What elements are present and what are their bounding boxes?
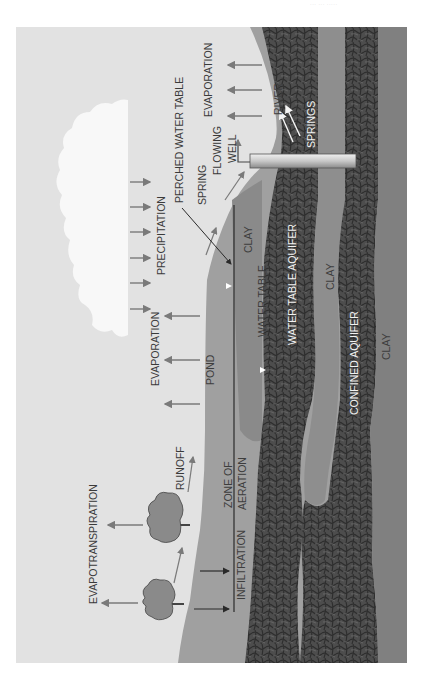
label-infiltration: INFILTRATION (235, 530, 247, 600)
label-confined-aquifer: CONFINED AQUIFER (348, 311, 360, 415)
label-water-table: WATER TABLE (256, 265, 268, 337)
label-springs: SPRINGS (305, 101, 317, 148)
label-flowing-well-1: FLOWING (211, 126, 223, 175)
label-river: RIVER (272, 82, 284, 115)
label-clay-bottom: CLAY (380, 333, 392, 360)
label-runoff: RUNOFF (174, 446, 186, 490)
label-zone-of-aeration-2: AERATION (236, 457, 248, 510)
label-pond: POND (204, 354, 216, 385)
flowing-well-casing (250, 154, 356, 168)
label-flowing-well-2: WELL (226, 134, 238, 163)
label-evaporation-right: EVAPORATION (202, 43, 214, 117)
label-precipitation: PRECIPITATION (155, 196, 167, 275)
label-clay-perched: CLAY (242, 226, 254, 253)
label-clay-middle: CLAY (324, 263, 336, 290)
label-water-table-aquifer: WATER TABLE AQUIFER (286, 224, 298, 345)
label-evapotranspiration: EVAPOTRANSPIRATION (87, 484, 99, 604)
label-spring: SPRING (196, 165, 208, 205)
groundwater-diagram: EVAPOTRANSPIRATION RUNOFF INFILTRATION Z… (0, 0, 424, 675)
label-perched-water-table: PERCHED WATER TABLE (173, 77, 185, 203)
clay-top-strip (318, 27, 345, 60)
label-zone-of-aeration-1: ZONE OF (222, 461, 234, 508)
label-evaporation-left: EVAPORATION (149, 312, 161, 386)
